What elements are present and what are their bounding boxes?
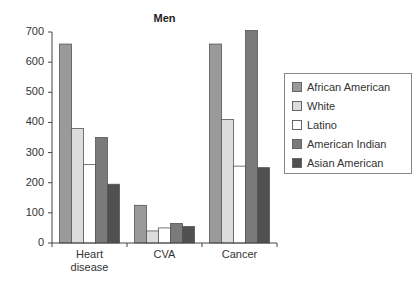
legend: African American White Latino American I…: [284, 73, 412, 174]
y-tick-label: 500: [4, 85, 44, 97]
y-tick-label: 100: [4, 206, 44, 218]
y-tick-label: 300: [4, 146, 44, 158]
x-label-heart-disease: Heart disease: [52, 248, 127, 274]
bar: [135, 205, 147, 243]
legend-item-latino: Latino: [292, 118, 337, 132]
bar: [72, 128, 84, 243]
legend-swatch: [292, 82, 302, 92]
y-tick-label: 600: [4, 55, 44, 67]
y-tick-label: 400: [4, 115, 44, 127]
legend-swatch: [292, 158, 302, 168]
bar: [147, 231, 159, 243]
legend-swatch: [292, 101, 302, 111]
bar: [210, 44, 222, 243]
y-tick-label: 0: [4, 236, 44, 248]
legend-item-asian-american: Asian American: [292, 156, 383, 170]
bar: [171, 223, 183, 243]
legend-item-african-american: African American: [292, 80, 390, 94]
bar: [108, 184, 120, 243]
legend-swatch: [292, 139, 302, 149]
bar: [96, 138, 108, 244]
bar: [84, 165, 96, 243]
bar-chart: Men 0100200300400500600700 Heart disease…: [0, 0, 416, 287]
legend-item-american-indian: American Indian: [292, 137, 387, 151]
bar: [222, 119, 234, 243]
y-tick-label: 700: [4, 25, 44, 37]
legend-item-white: White: [292, 99, 335, 113]
x-label-cancer: Cancer: [202, 248, 277, 261]
legend-swatch: [292, 120, 302, 130]
bar: [246, 30, 258, 243]
bar: [258, 168, 270, 243]
bar: [159, 228, 171, 243]
bars-group: [60, 30, 270, 243]
x-label-cva: CVA: [127, 248, 202, 261]
y-tick-label: 200: [4, 176, 44, 188]
bar: [183, 226, 195, 243]
bar: [234, 166, 246, 243]
bar: [60, 44, 72, 243]
